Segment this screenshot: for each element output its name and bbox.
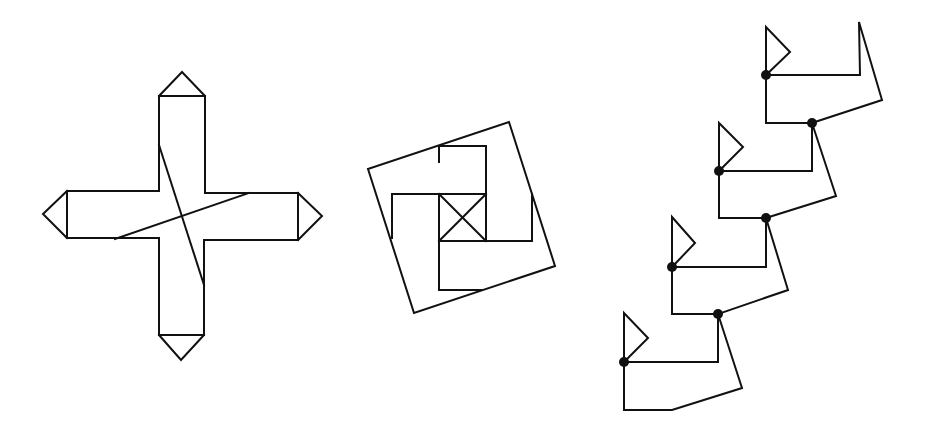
pinwheel-square-line-4: [439, 146, 486, 194]
cross-line-3: [298, 193, 322, 240]
cross-figure: [43, 72, 322, 360]
pinwheel-square-line-7: [392, 194, 439, 238]
staircase-line-0: [766, 27, 790, 75]
cross-line-5: [159, 145, 204, 285]
staircase-junction-dot-5: [713, 309, 723, 319]
staircase-junction-dot-3: [761, 213, 771, 223]
staircase-junction-dot-6: [619, 357, 629, 367]
staircase-junction-dot-2: [714, 166, 724, 176]
staircase-line-1: [766, 22, 882, 123]
staircase-figure: [619, 22, 882, 410]
staircase-junction-dot-4: [667, 262, 677, 272]
staircase-line-11: [624, 313, 648, 362]
pinwheel-square-line-6: [439, 241, 482, 290]
staircase-line-10: [672, 267, 718, 314]
diagram-canvas: [0, 0, 928, 435]
staircase-line-2: [766, 75, 812, 123]
staircase-junction-dot-1: [807, 118, 817, 128]
cross-line-1: [159, 72, 205, 96]
cross-line-2: [43, 191, 67, 238]
staircase-junction-dot-0: [761, 70, 771, 80]
staircase-line-8: [672, 218, 766, 267]
pinwheel-square-line-5: [486, 194, 532, 241]
staircase-line-4: [719, 123, 812, 171]
staircase-line-7: [672, 217, 695, 267]
pinwheel-square-figure: [368, 122, 555, 313]
cross-line-4: [159, 335, 204, 360]
staircase-line-6: [719, 171, 766, 218]
staircase-line-12: [624, 314, 718, 362]
figures-svg: [0, 0, 928, 435]
cross-line-6: [115, 193, 249, 239]
staircase-line-3: [719, 123, 743, 171]
